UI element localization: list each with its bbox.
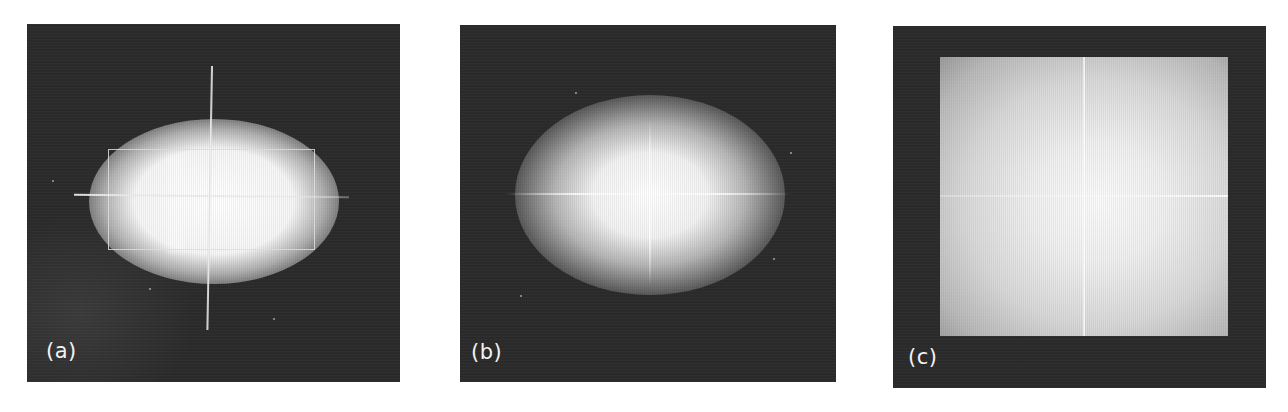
- panel-label: (a): [46, 339, 77, 363]
- speck: [575, 92, 577, 94]
- speck: [773, 258, 775, 260]
- panel-label: (c): [908, 345, 937, 369]
- crosshair-horizontal-line: [505, 193, 790, 195]
- speck: [273, 318, 275, 320]
- panel-label: (b): [471, 340, 502, 364]
- speck: [52, 180, 54, 182]
- bounding-rectangle: [108, 149, 315, 250]
- speck: [149, 288, 151, 290]
- speck: [790, 152, 792, 154]
- divider-horizontal-line: [940, 195, 1228, 197]
- crosshair-vertical-line: [649, 120, 651, 285]
- panel-b: (b): [460, 25, 836, 382]
- panel-a: (a): [27, 24, 400, 382]
- speck: [520, 295, 522, 297]
- bright-square-region: [940, 57, 1228, 336]
- panel-c: (c): [893, 26, 1266, 388]
